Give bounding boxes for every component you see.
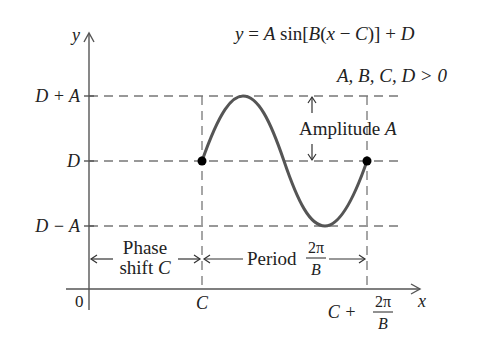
y-tick-max: D + A — [34, 86, 81, 106]
condition: A, B, C, D > 0 — [335, 65, 447, 86]
equation: y = A sin[B(x − C)] + D — [233, 23, 415, 45]
y-tick-mid: D — [66, 151, 80, 171]
y-tick-min: D − A — [34, 216, 81, 236]
period-label: Period — [247, 248, 297, 269]
x-axis-label: x — [417, 291, 426, 311]
x-tick-end-prefix: C + — [328, 302, 357, 322]
x-tick-end-den: B — [378, 315, 388, 332]
origin-label: 0 — [75, 292, 84, 311]
end-point — [363, 157, 372, 166]
sinusoid-diagram: y = A sin[B(x − C)] + D A, B, C, D > 0 y… — [0, 0, 479, 353]
phase-label-line1: Phase — [123, 237, 167, 258]
x-tick-c: C — [196, 293, 209, 313]
start-point — [198, 157, 207, 166]
amplitude-label: Amplitude A — [299, 118, 397, 139]
period-frac-num: 2π — [308, 239, 324, 256]
phase-label-line2: shift C — [119, 257, 171, 278]
y-axis-label: y — [70, 25, 80, 45]
x-tick-end-num: 2π — [375, 293, 391, 310]
period-frac-den: B — [311, 261, 321, 278]
